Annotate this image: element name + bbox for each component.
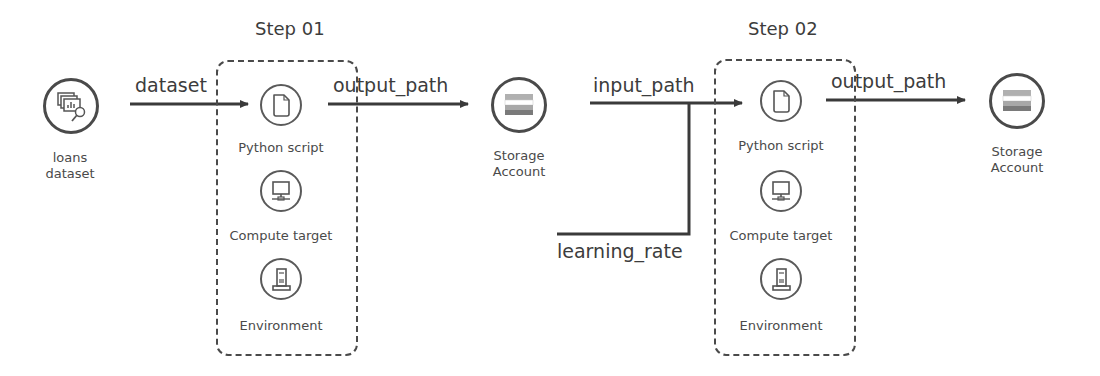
server-icon [262, 260, 300, 298]
document-icon [262, 86, 300, 124]
step-02-environment-label: Environment [726, 318, 836, 334]
storage-account-node-1 [491, 77, 547, 133]
step-01-environment-node [260, 258, 302, 300]
storage-account-node-2 [989, 73, 1045, 129]
edge-label-output-path-2: output_path [831, 70, 946, 92]
edge-label-input-path: input_path [593, 74, 695, 96]
storage-account-icon [992, 76, 1042, 126]
edge-label-learning-rate: learning_rate [557, 240, 683, 262]
step-02-compute-target-node [760, 170, 802, 212]
document-icon [762, 82, 800, 120]
storage-account-label-2: Storage Account [977, 144, 1057, 176]
edge-label-dataset: dataset [135, 74, 207, 96]
step-02-title: Step 02 [748, 18, 818, 39]
step-02-python-script-node [760, 80, 802, 122]
loans-dataset-node [43, 78, 99, 134]
loans-dataset-label: loans dataset [30, 150, 110, 182]
step-02-compute-target-label: Compute target [721, 228, 841, 244]
dataset-search-icon [46, 81, 96, 131]
learning-rate-connector [557, 103, 689, 234]
step-02-environment-node [760, 258, 802, 300]
step-01-title: Step 01 [255, 18, 325, 39]
storage-account-icon [494, 80, 544, 130]
step-01-python-script-node [260, 84, 302, 126]
step-01-compute-target-label: Compute target [221, 228, 341, 244]
monitor-icon [762, 172, 800, 210]
connectors [0, 0, 1100, 376]
monitor-icon [262, 172, 300, 210]
edge-label-output-path-1: output_path [333, 74, 448, 96]
step-02-python-script-label: Python script [726, 138, 836, 154]
step-01-python-script-label: Python script [226, 140, 336, 156]
step-01-compute-target-node [260, 170, 302, 212]
step-01-environment-label: Environment [226, 318, 336, 334]
storage-account-label-1: Storage Account [479, 148, 559, 180]
server-icon [762, 260, 800, 298]
